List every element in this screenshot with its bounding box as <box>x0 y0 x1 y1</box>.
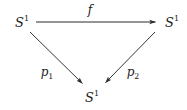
edge-label-f: f <box>88 4 92 16</box>
edge-label-p2-symbol: p <box>127 65 135 79</box>
node-target-superscript: 1 <box>174 14 179 23</box>
edge-label-p2: p2 <box>127 66 140 78</box>
edge-label-p1: p1 <box>41 66 54 78</box>
edge-label-f-symbol: f <box>88 3 92 17</box>
node-source-symbol: S <box>15 15 24 30</box>
node-target-symbol: S <box>165 15 174 30</box>
edge-label-p1-subscript: 1 <box>48 72 53 81</box>
node-base-circle: S1 <box>85 91 99 104</box>
arrow-p1 <box>30 32 82 83</box>
node-source-circle: S1 <box>15 16 29 29</box>
node-base-symbol: S <box>85 90 94 105</box>
node-base-superscript: 1 <box>94 89 99 98</box>
node-source-superscript: 1 <box>24 14 29 23</box>
commutative-diagram: S1 S1 S1 f p1 p2 <box>0 0 187 110</box>
edge-label-p1-symbol: p <box>41 65 49 79</box>
edge-label-p2-subscript: 2 <box>134 72 139 81</box>
node-target-circle: S1 <box>165 16 179 29</box>
